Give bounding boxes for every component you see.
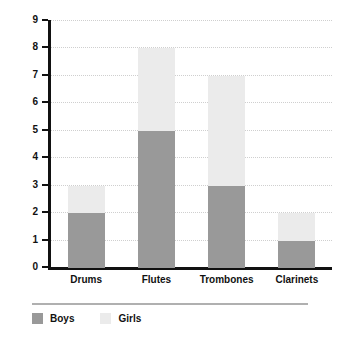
bar-segment-girls[interactable] — [138, 48, 175, 130]
bar-stack[interactable] — [138, 48, 175, 268]
legend-item[interactable]: Boys — [32, 313, 74, 324]
bar-segment-boys[interactable] — [138, 131, 175, 268]
gridline — [51, 75, 332, 76]
bar-segment-girls[interactable] — [68, 186, 105, 213]
gridline — [51, 20, 332, 21]
y-tick-label: 4 — [0, 152, 38, 162]
bar-segment-boys[interactable] — [68, 213, 105, 268]
gridline — [51, 130, 332, 131]
legend-swatch — [100, 313, 111, 324]
legend-swatch — [32, 313, 43, 324]
y-tick-label: 2 — [0, 207, 38, 217]
y-tick-label: 5 — [0, 125, 38, 135]
y-tick-label: 9 — [0, 15, 38, 25]
bar-segment-girls[interactable] — [208, 76, 245, 186]
legend-divider — [32, 303, 308, 305]
y-tick-label: 8 — [0, 42, 38, 52]
x-tick-label: Clarinets — [247, 274, 340, 286]
gridline — [51, 102, 332, 103]
y-tick-label: 0 — [0, 262, 38, 272]
legend-label: Boys — [50, 313, 74, 324]
y-tick-label: 6 — [0, 97, 38, 107]
bar-stack[interactable] — [278, 213, 315, 268]
gridline — [51, 47, 332, 48]
legend-label: Girls — [118, 313, 141, 324]
legend-item[interactable]: Girls — [100, 313, 141, 324]
plot-area: 0123456789 DrumsFlutesTrombonesClarinets — [0, 0, 340, 290]
gridline — [51, 157, 332, 158]
bar-stack[interactable] — [208, 76, 245, 268]
stacked-bar-chart: 0123456789 DrumsFlutesTrombonesClarinets… — [0, 0, 340, 339]
legend: BoysGirls — [32, 303, 308, 324]
bar-segment-girls[interactable] — [278, 213, 315, 240]
y-axis-line — [48, 20, 51, 270]
y-tick-label: 1 — [0, 235, 38, 245]
y-tick-label: 7 — [0, 70, 38, 80]
bar-stack[interactable] — [68, 186, 105, 268]
bar-segment-boys[interactable] — [278, 241, 315, 268]
y-tick-label: 3 — [0, 180, 38, 190]
bar-segment-boys[interactable] — [208, 186, 245, 268]
legend-items: BoysGirls — [32, 313, 308, 324]
